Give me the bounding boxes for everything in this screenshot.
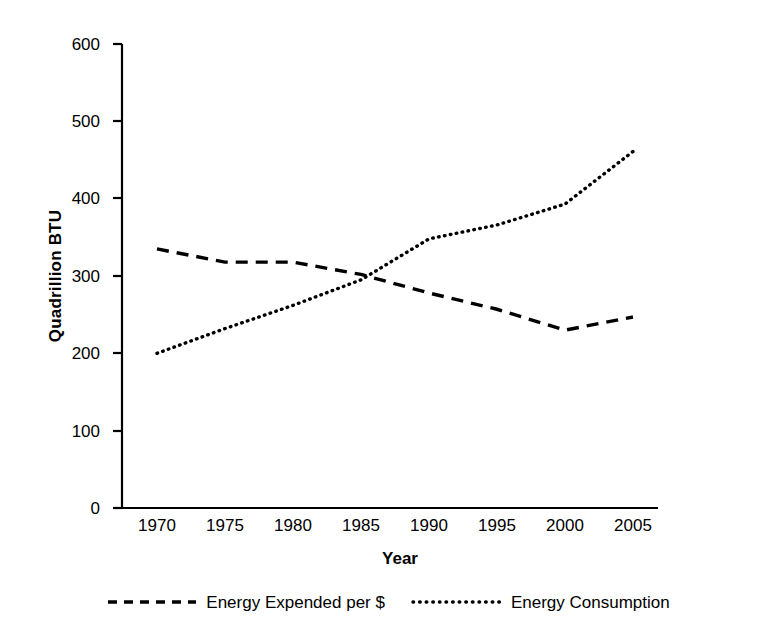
- series-line-energy-expended-per-dollar: [157, 249, 633, 330]
- dashed-line-swatch-icon: [106, 597, 198, 607]
- x-tick-label-1975: 1975: [191, 517, 259, 534]
- x-tick-label-1990: 1990: [395, 517, 463, 534]
- x-tick-label-1970: 1970: [123, 517, 191, 534]
- x-axis-title: Year: [330, 549, 470, 568]
- chart-legend: Energy Expended per $ Energy Consumption: [0, 588, 776, 616]
- legend-entry-energy-expended-per-dollar: Energy Expended per $: [106, 593, 385, 612]
- series-line-energy-consumption: [157, 151, 633, 353]
- dotted-line-swatch-icon: [411, 597, 503, 607]
- x-tick-label-1980: 1980: [259, 517, 327, 534]
- legend-label-energy-consumption: Energy Consumption: [511, 593, 670, 612]
- x-tick-label-1985: 1985: [327, 517, 395, 534]
- x-tick-label-2000: 2000: [531, 517, 599, 534]
- x-tick-label-2005: 2005: [599, 517, 667, 534]
- legend-entry-energy-consumption: Energy Consumption: [411, 593, 670, 612]
- y-axis-ticks: [113, 44, 122, 508]
- legend-label-energy-expended-per-dollar: Energy Expended per $: [206, 593, 385, 612]
- line-chart: Quadrillion BTU 600 500 400 300 200 100 …: [0, 0, 776, 625]
- x-tick-label-1995: 1995: [463, 517, 531, 534]
